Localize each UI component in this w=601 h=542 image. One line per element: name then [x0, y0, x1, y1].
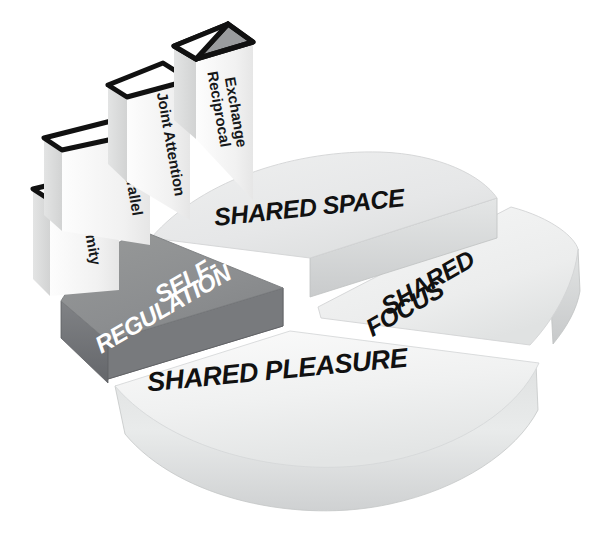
diagram-svg: SHARED PLEASURE SHARED FOCUS SHARED SPAC…	[0, 0, 601, 542]
diagram-canvas: SHARED PLEASURE SHARED FOCUS SHARED SPAC…	[0, 0, 601, 542]
parallel-side	[44, 138, 62, 231]
